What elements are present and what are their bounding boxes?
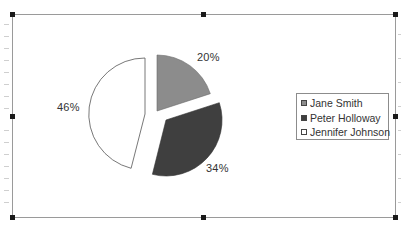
legend-item-jennifer-johnson[interactable]: Jennifer Johnson (301, 125, 388, 140)
legend-label: Jane Smith (310, 97, 363, 109)
legend-item-jane-smith[interactable]: Jane Smith (301, 96, 388, 111)
legend-item-peter-holloway[interactable]: Peter Holloway (301, 111, 388, 126)
pie-slice-jennifer-johnson[interactable] (89, 58, 145, 168)
pie-slice-jane-smith[interactable] (157, 55, 210, 111)
legend-swatch-icon (301, 129, 307, 135)
data-label-peter-holloway: 34% (206, 162, 229, 174)
data-label-jennifer-johnson: 46% (57, 101, 80, 113)
chart-legend[interactable]: Jane Smith Peter Holloway Jennifer Johns… (296, 93, 389, 140)
legend-label: Peter Holloway (310, 112, 381, 124)
legend-swatch-icon (301, 100, 307, 106)
legend-label: Jennifer Johnson (310, 126, 390, 138)
data-label-jane-smith: 20% (197, 51, 220, 63)
legend-swatch-icon (301, 115, 307, 121)
